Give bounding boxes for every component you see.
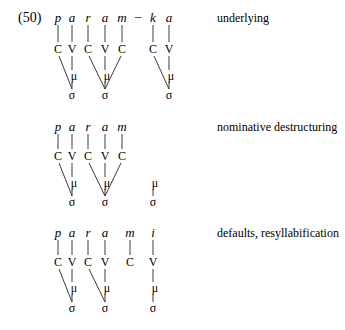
skeletal-slot-v: V — [149, 255, 158, 269]
segment: r — [85, 119, 91, 134]
segment: p — [54, 225, 62, 240]
mora: μ — [71, 69, 77, 83]
skeletal-slot-c: C — [84, 255, 92, 269]
skeletal-slot-c: C — [54, 42, 62, 56]
autosegmental-diagram: (50) underlying p a r a m – k a C V C V … — [0, 0, 345, 330]
segment: a — [102, 10, 109, 25]
skeletal-slot-c: C — [126, 255, 134, 269]
skeletal-slot-c: C — [149, 42, 157, 56]
segment: m — [117, 119, 126, 134]
syllable: σ — [69, 301, 76, 315]
skeletal-slot-v: V — [101, 149, 110, 163]
mora: μ — [104, 281, 110, 295]
mora: μ — [71, 281, 77, 295]
stage-label: defaults, resyllabification — [217, 226, 339, 240]
mora: μ — [71, 176, 77, 190]
segment: k — [150, 10, 156, 25]
skeletal-slot-c: C — [84, 42, 92, 56]
floating-syllable: σ — [150, 195, 157, 209]
segment: i — [151, 225, 155, 240]
segment: r — [85, 10, 91, 25]
segment: a — [69, 119, 76, 134]
segment: a — [69, 225, 76, 240]
syllable: σ — [69, 195, 76, 209]
stage-label: nominative destructuring — [217, 120, 337, 134]
stage-label: underlying — [217, 11, 269, 25]
syllable: σ — [102, 301, 109, 315]
skeletal-slot-v: V — [68, 149, 77, 163]
segment: a — [166, 10, 173, 25]
syllable: σ — [69, 88, 76, 102]
skeletal-slot-c: C — [118, 149, 126, 163]
syllable: σ — [166, 88, 173, 102]
mora: μ — [168, 69, 174, 83]
example-number: (50) — [18, 10, 42, 26]
skeletal-slot-v: V — [68, 255, 77, 269]
segment: a — [102, 225, 109, 240]
stage-defaults-resyllabification: defaults, resyllabification p a r a m i … — [54, 225, 339, 315]
skeletal-slot-c: C — [118, 42, 126, 56]
skeletal-slot-v: V — [101, 42, 110, 56]
morpheme-boundary: – — [134, 8, 142, 23]
segment: p — [54, 119, 62, 134]
skeletal-slot-v: V — [68, 42, 77, 56]
skeletal-slot-c: C — [54, 149, 62, 163]
skeletal-slot-v: V — [165, 42, 174, 56]
stage-underlying: underlying p a r a m – k a C V C V C C V… — [54, 8, 269, 102]
syllable: σ — [102, 195, 109, 209]
segment: a — [102, 119, 109, 134]
skeletal-slot-c: C — [54, 255, 62, 269]
floating-mora: μ — [152, 176, 158, 190]
segment: m — [117, 10, 126, 25]
segment: a — [69, 10, 76, 25]
mora: μ — [152, 281, 158, 295]
segment: r — [85, 225, 91, 240]
syllable: σ — [102, 88, 109, 102]
segment: p — [54, 10, 62, 25]
segment: m — [125, 225, 134, 240]
skeletal-slot-v: V — [101, 255, 110, 269]
stage-nominative-destructuring: nominative destructuring p a r a m C V C… — [54, 119, 338, 209]
skeletal-slot-c: C — [84, 149, 92, 163]
syllable: σ — [150, 301, 157, 315]
